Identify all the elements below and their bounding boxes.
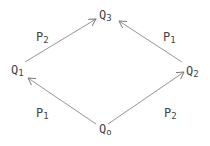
edge-label-q0-q1: P1 bbox=[36, 107, 49, 120]
node-q3: Q3 bbox=[99, 9, 112, 22]
node-q0-sub: o bbox=[106, 127, 111, 137]
node-q0: Qo bbox=[99, 123, 112, 136]
node-q1: Q1 bbox=[11, 64, 24, 77]
edge-label-sub: 2 bbox=[43, 35, 48, 45]
node-q1-sub: 1 bbox=[18, 68, 23, 78]
edge-label-q0-q2: P2 bbox=[164, 107, 177, 120]
node-q2-sub: 2 bbox=[193, 69, 198, 79]
edge-label-q2-q3: P1 bbox=[163, 31, 176, 44]
node-q2: Q2 bbox=[186, 65, 199, 78]
edge-label-sub: 1 bbox=[43, 111, 48, 121]
edge-label-sub: 1 bbox=[170, 35, 175, 45]
node-q3-sub: 3 bbox=[106, 13, 111, 23]
edge-label-sub: 2 bbox=[171, 111, 176, 121]
edge-label-q1-q3: P2 bbox=[36, 31, 49, 44]
